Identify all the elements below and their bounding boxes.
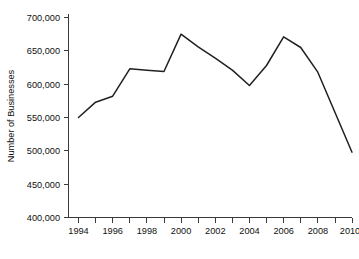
x-tick-label-2000: 2000 xyxy=(171,226,191,236)
x-tick-label-1994: 1994 xyxy=(68,226,88,236)
x-tick-label-2008: 2008 xyxy=(308,226,328,236)
y-tick-label-550000: 550,000 xyxy=(27,113,60,123)
y-tick-label-500000: 500,000 xyxy=(27,146,60,156)
y-tick-label-600000: 600,000 xyxy=(27,80,60,90)
x-tick-label-2006: 2006 xyxy=(273,226,293,236)
y-tick-label-400000: 400,000 xyxy=(27,213,60,223)
y-axis-tick-labels: 400,000 450,000 500,000 550,000 600,000 … xyxy=(27,13,60,223)
line-chart: 400,000 450,000 500,000 550,000 600,000 … xyxy=(0,0,359,259)
y-tick-label-650000: 650,000 xyxy=(27,46,60,56)
y-axis-ticks xyxy=(64,18,69,218)
chart-canvas: 400,000 450,000 500,000 550,000 600,000 … xyxy=(0,0,359,259)
y-tick-label-450000: 450,000 xyxy=(27,180,60,190)
x-tick-label-1998: 1998 xyxy=(137,226,157,236)
y-axis-title: Number of Businesses xyxy=(6,69,16,162)
x-tick-label-2002: 2002 xyxy=(205,226,225,236)
x-tick-label-1996: 1996 xyxy=(102,226,122,236)
x-tick-label-2004: 2004 xyxy=(239,226,259,236)
x-tick-label-2010: 2010 xyxy=(340,226,359,236)
x-axis-tick-labels: 1994 1996 1998 2000 2002 2004 2006 2008 … xyxy=(68,226,359,236)
y-tick-label-700000: 700,000 xyxy=(27,13,60,23)
data-series-line xyxy=(79,34,353,152)
x-axis-ticks xyxy=(79,218,353,223)
